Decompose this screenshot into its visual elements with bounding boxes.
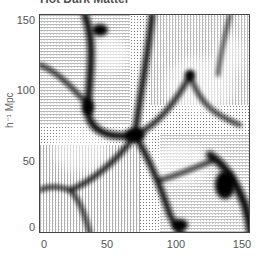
y-tick-150: 150 — [17, 14, 35, 26]
x-tick-0: 0 — [41, 238, 47, 250]
y-tick-0: 0 — [29, 221, 35, 233]
x-tick-50: 50 — [101, 238, 113, 250]
density-plot — [39, 14, 250, 233]
y-axis-label: h⁻¹ Mpc — [4, 92, 15, 128]
x-tick-150: 150 — [233, 238, 251, 250]
y-tick-50: 50 — [23, 155, 35, 167]
density-map-graphic — [40, 15, 250, 233]
y-tick-100: 100 — [17, 84, 35, 96]
chart-title: Hot Dark Matter — [0, 0, 261, 6]
x-tick-100: 100 — [167, 238, 185, 250]
